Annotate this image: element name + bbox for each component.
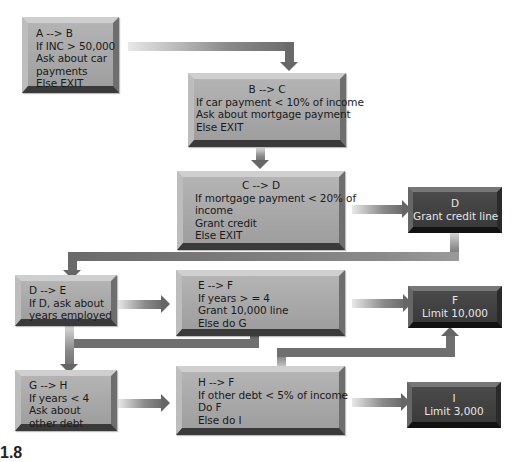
node-line: Grant credit: [195, 217, 327, 230]
node-title: F: [413, 294, 497, 307]
connector-g-h: [118, 399, 163, 408]
node-e: E --> F If years > = 4 Grant 10,000 line…: [176, 270, 345, 336]
arrow-down-icon: [251, 160, 269, 169]
node-line: Ask about mortgage payment: [196, 108, 338, 121]
node-line: income: [195, 204, 327, 217]
node-line: If years > = 4: [198, 292, 323, 305]
connector-d-e-horizontal: [68, 252, 459, 261]
node-line: Grant 10,000 line: [198, 304, 323, 317]
connector-c-d: [352, 205, 404, 214]
figure-label: 1.8: [0, 444, 22, 462]
node-line: Else do I: [198, 414, 323, 427]
arrow-right-icon: [161, 295, 170, 313]
node-a: A --> B If INC > 50,000 Ask about car pa…: [22, 17, 119, 93]
node-line: payments: [36, 65, 105, 78]
node-title: H --> F: [198, 376, 323, 389]
node-c: C --> D If mortgage payment < 20% of inc…: [177, 171, 345, 250]
node-title: D --> E: [29, 284, 103, 297]
node-line: Else EXIT: [36, 77, 105, 90]
node-title: G --> H: [29, 379, 103, 392]
node-title: B --> C: [196, 83, 338, 96]
node-line: If INC > 50,000: [36, 40, 105, 53]
node-line: Else EXIT: [195, 229, 327, 242]
arrow-right-icon: [161, 394, 170, 412]
node-line: If years < 4: [29, 392, 103, 405]
connector-e-g-horizontal: [68, 339, 259, 348]
node-title: I: [412, 392, 496, 405]
node-line: Grant credit line: [413, 210, 497, 223]
node-title: D: [413, 197, 497, 210]
node-line: Limit 3,000: [412, 405, 496, 418]
node-d-to-e: D --> E If D, ask about years employed: [15, 275, 117, 326]
node-i: I Limit 3,000: [407, 382, 501, 428]
node-g: G --> H If years < 4 Ask about other deb…: [15, 370, 117, 431]
connector-h-f-vertical-right: [446, 334, 455, 357]
node-line: other debt: [29, 417, 103, 430]
connector-de-g-vertical: [65, 326, 74, 368]
arrow-up-icon: [441, 327, 459, 336]
connector-a-b-horizontal: [128, 42, 294, 51]
node-f: F Limit 10,000: [408, 286, 502, 328]
node-h: H --> F If other debt < 5% of income Do …: [176, 366, 345, 435]
node-line: Ask about car: [36, 52, 105, 65]
node-line: If D, ask about: [29, 297, 103, 310]
node-d: D Grant credit line: [408, 187, 502, 233]
connector-h-i: [352, 398, 403, 407]
connector-de-e: [118, 300, 163, 309]
connector-h-f-horizontal: [277, 348, 455, 357]
node-line: Do F: [198, 401, 323, 414]
node-line: Limit 10,000: [413, 307, 497, 320]
node-title: C --> D: [195, 179, 327, 192]
connector-a-b-vertical: [285, 42, 294, 64]
node-title: E --> F: [198, 279, 323, 292]
node-title: A --> B: [36, 27, 105, 40]
connector-d-e-vertical-left: [68, 252, 77, 272]
arrow-down-icon: [280, 62, 298, 71]
node-line: Else EXIT: [196, 121, 338, 134]
node-line: If car payment < 10% of income: [196, 96, 338, 109]
connector-e-f: [352, 299, 405, 308]
node-line: Ask about: [29, 404, 103, 417]
node-line: years employed: [29, 309, 103, 322]
node-b: B --> C If car payment < 10% of income A…: [188, 73, 346, 147]
node-line: Else do G: [198, 317, 323, 330]
node-line: If mortgage payment < 20% of: [195, 192, 327, 205]
node-line: If other debt < 5% of income: [198, 389, 323, 402]
